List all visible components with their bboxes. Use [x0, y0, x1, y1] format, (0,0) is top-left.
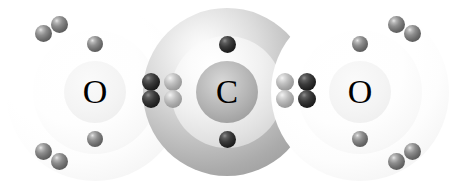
atom-label-layer: OCO [0, 0, 454, 183]
oxygen-right-lone-pair-lower-inner [388, 153, 405, 170]
oxygen-left-symbol: O [65, 68, 125, 116]
oxygen-right-inner-electron-top [352, 36, 368, 52]
oxygen-left-middle-shell [33, 30, 157, 154]
bond-left-oxygen-electron-top [142, 73, 160, 91]
oxygen-left-core [64, 61, 126, 123]
bond-right-carbon-electron-top [276, 73, 294, 91]
oxygen-left-inner-electron-top [87, 36, 103, 52]
oxygen-right-symbol: O [330, 68, 390, 116]
electron-layer [0, 0, 454, 183]
bond-left-carbon-electron-bottom [164, 90, 182, 108]
oxygen-right-lone-pair-upper-outer [404, 25, 421, 42]
co2-bohr-diagram: OCO [0, 0, 454, 183]
bond-right-oxygen-electron-bottom [298, 90, 316, 108]
oxygen-left-lone-pair-upper-outer [35, 25, 52, 42]
oxygen-right-lone-pair-lower-outer [404, 143, 421, 160]
oxygen-right-lone-pair-upper-inner [388, 16, 405, 33]
oxygen-left-inner-electron-bottom [87, 131, 103, 147]
bond-left-oxygen-electron-bottom [142, 90, 160, 108]
oxygen-left-lone-pair-lower-outer [35, 143, 52, 160]
bond-right-carbon-electron-bottom [276, 90, 294, 108]
bond-right-oxygen-electron-top [298, 73, 316, 91]
oxygen-left-outer-shell [6, 3, 184, 181]
oxygen-right-middle-shell [298, 30, 422, 154]
electron-shell-layer [0, 0, 454, 183]
carbon-inner-electron-bottom [219, 131, 236, 148]
oxygen-right-inner-electron-bottom [352, 131, 368, 147]
carbon-inner-electron-top [219, 36, 236, 53]
oxygen-right-core [329, 61, 391, 123]
carbon-center-core [196, 61, 258, 123]
carbon-center-middle-shell [171, 36, 283, 148]
oxygen-left-lone-pair-upper-inner [51, 16, 68, 33]
bond-left-carbon-electron-top [164, 73, 182, 91]
carbon-center-outer-shell [143, 8, 311, 176]
oxygen-left-lone-pair-lower-inner [51, 153, 68, 170]
oxygen-right-outer-shell [271, 3, 449, 181]
carbon-center-symbol: C [197, 68, 257, 116]
